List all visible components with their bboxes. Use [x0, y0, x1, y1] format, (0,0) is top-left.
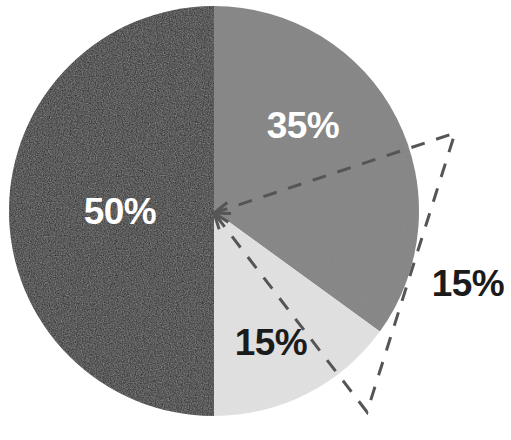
pie-chart-figure: 50% 35% 15% 15%	[0, 0, 511, 440]
pie-chart-svg: 50% 35% 15% 15%	[0, 0, 511, 440]
pie-slices	[9, 6, 419, 416]
data-label-15-percent-inner: 15%	[235, 322, 308, 363]
data-label-50-percent: 50%	[84, 191, 157, 232]
data-label-35-percent: 35%	[267, 105, 340, 146]
data-label-15-percent-callout: 15%	[432, 263, 505, 304]
